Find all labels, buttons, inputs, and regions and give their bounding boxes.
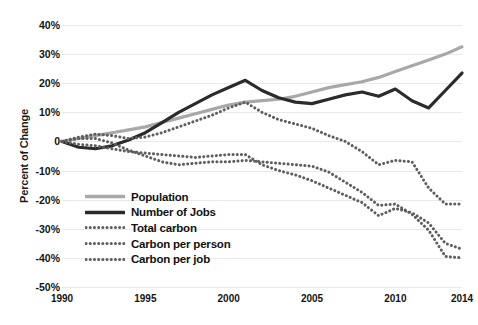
legend-label: Number of Jobs [131, 206, 216, 218]
legend-item[interactable]: Total carbon [85, 220, 230, 236]
legend-item[interactable]: Population [85, 189, 230, 205]
legend-swatch-icon [85, 238, 125, 249]
legend-item[interactable]: Number of Jobs [85, 205, 230, 221]
legend-swatch-icon [85, 191, 125, 202]
legend-label: Carbon per job [131, 253, 210, 265]
legend-item[interactable]: Carbon per person [85, 236, 230, 252]
legend-swatch-icon [85, 254, 125, 265]
legend-swatch-icon [85, 222, 125, 233]
legend-label: Population [131, 191, 188, 203]
legend-item[interactable]: Carbon per job [85, 251, 230, 267]
legend-swatch-icon [85, 207, 125, 218]
legend-label: Total carbon [131, 222, 197, 234]
chart-legend: PopulationNumber of JobsTotal carbonCarb… [85, 189, 230, 267]
legend-label: Carbon per person [131, 238, 230, 250]
